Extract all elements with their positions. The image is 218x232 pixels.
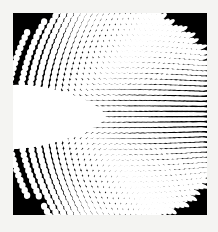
- halftone-pattern: [13, 13, 207, 215]
- op-art-figure: [13, 13, 207, 215]
